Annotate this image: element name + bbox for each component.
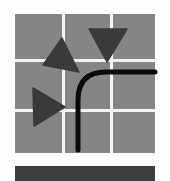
grid-tile — [113, 112, 155, 153]
tile-grid — [15, 14, 155, 153]
icon-canvas — [0, 0, 170, 181]
grid-tile — [113, 62, 155, 109]
grid-tile — [65, 112, 110, 153]
grid-map-icon — [0, 0, 170, 181]
bottom-bar — [15, 166, 155, 181]
